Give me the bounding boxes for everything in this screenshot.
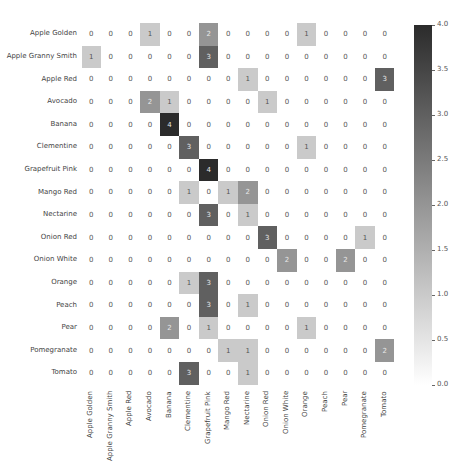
heatmap-cell: 0 bbox=[336, 362, 356, 385]
heatmap-cell: 0 bbox=[179, 249, 199, 272]
heatmap-cell: 0 bbox=[355, 113, 375, 136]
heatmap-cell: 0 bbox=[258, 362, 278, 385]
heatmap-cell: 0 bbox=[316, 136, 336, 159]
heatmap-cell: 0 bbox=[101, 68, 121, 91]
heatmap-cell: 0 bbox=[277, 113, 297, 136]
colorbar-tick-label: 3.0 bbox=[437, 110, 448, 118]
heatmap-cell: 0 bbox=[258, 272, 278, 295]
x-tick-label: Onion Red bbox=[262, 390, 270, 426]
x-tick-label: Onion White bbox=[282, 390, 290, 433]
heatmap-cell: 0 bbox=[316, 91, 336, 114]
heatmap-cell: 0 bbox=[355, 294, 375, 317]
heatmap-cell: 0 bbox=[101, 362, 121, 385]
heatmap-cell: 0 bbox=[355, 339, 375, 362]
heatmap-cell: 0 bbox=[316, 317, 336, 340]
x-tick-label: Avocado bbox=[145, 391, 153, 421]
heatmap-cell: 0 bbox=[199, 91, 219, 114]
heatmap-cell: 0 bbox=[101, 91, 121, 114]
heatmap-cell: 0 bbox=[336, 317, 356, 340]
heatmap-cell: 0 bbox=[258, 294, 278, 317]
heatmap-cell: 0 bbox=[160, 226, 180, 249]
x-tick-label: Apple Golden bbox=[86, 391, 94, 438]
heatmap-cell: 3 bbox=[199, 294, 219, 317]
heatmap-cell: 0 bbox=[238, 272, 258, 295]
heatmap-cell: 0 bbox=[199, 249, 219, 272]
heatmap-cell: 0 bbox=[160, 272, 180, 295]
heatmap-cell: 0 bbox=[375, 136, 395, 159]
heatmap-cell: 1 bbox=[258, 91, 278, 114]
heatmap-cell: 0 bbox=[160, 46, 180, 69]
heatmap-cell: 0 bbox=[179, 91, 199, 114]
x-tick-label: Peach bbox=[321, 391, 329, 412]
heatmap-cell: 0 bbox=[297, 46, 317, 69]
heatmap-cell: 0 bbox=[121, 204, 141, 227]
x-tick-label: Nectarine bbox=[243, 391, 251, 425]
heatmap-cell: 2 bbox=[140, 91, 160, 114]
heatmap-cell: 0 bbox=[140, 46, 160, 69]
heatmap-cell: 0 bbox=[277, 272, 297, 295]
heatmap-cell: 0 bbox=[179, 46, 199, 69]
heatmap-cell: 0 bbox=[316, 249, 336, 272]
heatmap-cell: 0 bbox=[101, 23, 121, 46]
x-tick-label: Pear bbox=[341, 390, 349, 405]
heatmap-cell: 0 bbox=[140, 136, 160, 159]
heatmap-cell: 0 bbox=[297, 204, 317, 227]
heatmap-cell: 0 bbox=[121, 159, 141, 182]
heatmap-cell: 0 bbox=[375, 91, 395, 114]
colorbar-tick-mark bbox=[432, 160, 435, 161]
heatmap-cell: 0 bbox=[297, 181, 317, 204]
heatmap-cell: 0 bbox=[355, 91, 375, 114]
heatmap-cell: 0 bbox=[316, 294, 336, 317]
heatmap-cell: 0 bbox=[199, 339, 219, 362]
heatmap-cell: 0 bbox=[355, 23, 375, 46]
heatmap-cell: 0 bbox=[160, 204, 180, 227]
heatmap-cell: 0 bbox=[277, 68, 297, 91]
heatmap-cell: 0 bbox=[297, 339, 317, 362]
heatmap-cell: 0 bbox=[121, 113, 141, 136]
heatmap-cell: 0 bbox=[160, 23, 180, 46]
heatmap-cell: 0 bbox=[238, 46, 258, 69]
heatmap-cell: 0 bbox=[258, 136, 278, 159]
y-tick-label: Orange bbox=[51, 278, 77, 286]
heatmap-cell: 0 bbox=[82, 272, 102, 295]
heatmap-cell: 0 bbox=[258, 339, 278, 362]
heatmap-cell: 0 bbox=[277, 339, 297, 362]
y-tick-label: Mango Red bbox=[38, 188, 77, 196]
heatmap-cell: 0 bbox=[101, 159, 121, 182]
heatmap-cell: 0 bbox=[238, 136, 258, 159]
heatmap-cell: 0 bbox=[316, 339, 336, 362]
heatmap-cell: 0 bbox=[336, 159, 356, 182]
heatmap-cell: 0 bbox=[140, 68, 160, 91]
heatmap-cell: 0 bbox=[121, 249, 141, 272]
heatmap-cell: 0 bbox=[218, 317, 238, 340]
heatmap-cell: 1 bbox=[82, 46, 102, 69]
heatmap-cell: 1 bbox=[160, 91, 180, 114]
heatmap-cell: 0 bbox=[121, 362, 141, 385]
heatmap-cell: 0 bbox=[375, 204, 395, 227]
heatmap-cell: 0 bbox=[199, 113, 219, 136]
y-tick-label: Onion Red bbox=[41, 233, 77, 241]
heatmap-cell: 3 bbox=[258, 226, 278, 249]
heatmap-cell: 0 bbox=[121, 181, 141, 204]
heatmap-cell: 0 bbox=[355, 204, 375, 227]
heatmap-cell: 0 bbox=[336, 68, 356, 91]
heatmap-cell: 0 bbox=[238, 249, 258, 272]
heatmap-cell: 0 bbox=[238, 317, 258, 340]
heatmap-cell: 1 bbox=[218, 339, 238, 362]
heatmap-cell: 0 bbox=[179, 159, 199, 182]
heatmap-cell: 0 bbox=[140, 317, 160, 340]
heatmap-cell: 0 bbox=[82, 339, 102, 362]
y-tick-label: Apple Golden bbox=[30, 29, 77, 37]
heatmap-cell: 0 bbox=[179, 339, 199, 362]
heatmap-cell: 0 bbox=[140, 181, 160, 204]
heatmap-cell: 4 bbox=[160, 113, 180, 136]
heatmap-cell: 0 bbox=[121, 294, 141, 317]
heatmap-cell: 0 bbox=[277, 136, 297, 159]
heatmap-cell: 0 bbox=[258, 23, 278, 46]
heatmap-cell: 0 bbox=[336, 91, 356, 114]
heatmap-cell: 0 bbox=[297, 91, 317, 114]
heatmap-cell: 0 bbox=[336, 23, 356, 46]
heatmap-cell: 0 bbox=[336, 294, 356, 317]
colorbar-tick-label: 4.0 bbox=[437, 20, 448, 28]
heatmap-cell: 0 bbox=[297, 272, 317, 295]
